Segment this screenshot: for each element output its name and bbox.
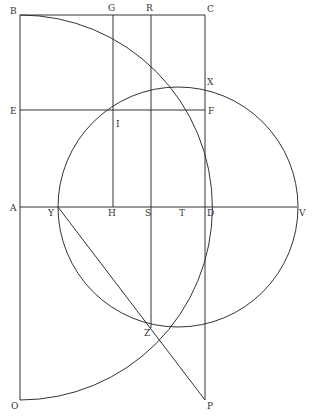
point-label-v: V	[298, 208, 306, 218]
point-label-x: X	[207, 77, 214, 87]
point-label-r: R	[146, 3, 153, 13]
point-label-e: E	[10, 106, 17, 116]
point-label-p: P	[207, 401, 213, 411]
point-label-s: S	[145, 208, 151, 218]
point-label-b: B	[10, 6, 17, 16]
geometry-diagram: BGRCXEFIAYHSTDVZOP	[0, 0, 313, 418]
point-label-c: C	[207, 4, 214, 14]
point-label-z: Z	[144, 328, 150, 338]
point-label-g: G	[108, 3, 115, 13]
point-label-y: Y	[47, 208, 55, 218]
point-label-f: F	[208, 106, 214, 116]
point-label-a: A	[9, 203, 17, 213]
point-label-h: H	[108, 208, 116, 218]
point-label-d: D	[207, 208, 214, 218]
point-label-o: O	[11, 401, 18, 411]
point-label-i: I	[116, 119, 120, 129]
segment-yp	[58, 207, 205, 400]
segments	[20, 15, 297, 400]
point-label-t: T	[179, 208, 185, 218]
